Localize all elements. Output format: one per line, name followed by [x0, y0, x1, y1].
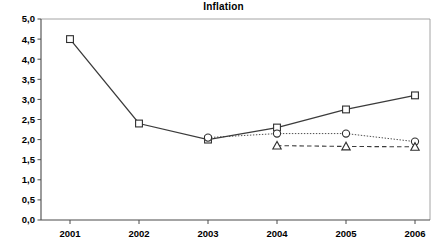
y-tick-label: 3,0: [22, 94, 35, 105]
data-point-marker-square: [412, 92, 419, 99]
data-point-marker-circle: [204, 134, 211, 141]
y-tick-label: 0,0: [22, 214, 35, 225]
x-tick-label: 2006: [404, 228, 425, 239]
chart-plot-area: 0,00,51,01,52,02,53,03,54,04,55,0 200120…: [0, 0, 447, 242]
x-tick-label: 2002: [128, 228, 149, 239]
x-tick-label: 2004: [266, 228, 288, 239]
y-tick-label: 1,0: [22, 174, 35, 185]
x-tick-label: 2005: [335, 228, 357, 239]
data-point-marker-circle: [273, 130, 280, 137]
y-tick-label: 4,5: [22, 34, 36, 45]
y-tick-label: 5,0: [22, 13, 35, 24]
y-tick-label: 2,0: [22, 134, 35, 145]
x-tick-label: 2001: [59, 228, 81, 239]
y-tick-label: 2,5: [22, 114, 36, 125]
data-point-marker-square: [67, 36, 74, 43]
data-point-marker-square: [343, 106, 350, 113]
x-axis-labels: 200120022003200420052006: [59, 228, 425, 239]
y-tick-label: 3,5: [22, 74, 36, 85]
inflation-line-chart: Inflation 0,00,51,01,52,02,53,03,54,04,5…: [0, 0, 447, 242]
data-point-marker-circle: [342, 130, 349, 137]
y-tick-label: 1,5: [22, 154, 36, 165]
y-tick-label: 4,0: [22, 54, 35, 65]
y-axis-labels: 0,00,51,01,52,02,53,03,54,04,55,0: [22, 13, 36, 225]
data-series-group: [67, 36, 420, 151]
data-point-marker-square: [136, 120, 143, 127]
series-line-square: [70, 39, 415, 140]
y-tick-label: 0,5: [22, 194, 36, 205]
x-axis-ticks: [70, 220, 415, 224]
x-tick-label: 2003: [197, 228, 218, 239]
plot-frame: [41, 19, 430, 220]
